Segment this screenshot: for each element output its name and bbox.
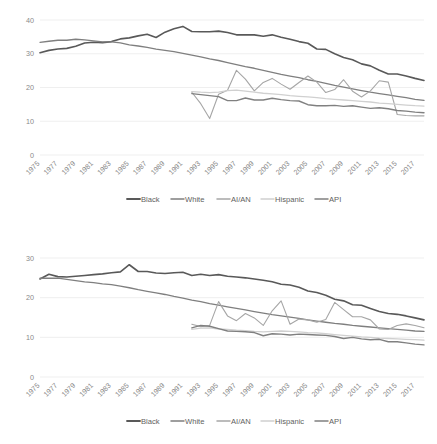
legend-label-ai-an: AI/AN: [231, 195, 251, 204]
legend-label-white: White: [185, 195, 204, 204]
x-axis-tick-label: 1991: [167, 381, 185, 399]
y-axis-tick-label: 20: [26, 293, 34, 302]
x-axis-tick-label: 2015: [381, 159, 399, 177]
legend-label-white: White: [185, 417, 204, 426]
line-chart-top: 0102030401975197719791981198319851987198…: [0, 0, 437, 222]
x-axis-tick-label: 1997: [220, 159, 238, 177]
x-axis-tick-label: 2011: [346, 381, 363, 398]
x-axis-tick-label: 2005: [292, 381, 310, 399]
x-axis-tick-label: 1989: [149, 159, 167, 177]
series-line-hispanic: [192, 90, 424, 106]
x-axis-tick-label: 2017: [399, 159, 417, 177]
x-axis-tick-label: 1975: [24, 159, 42, 177]
legend-label-hispanic: Hispanic: [275, 195, 304, 204]
series-line-white: [40, 39, 424, 100]
y-axis-tick-label: 10: [26, 117, 34, 126]
x-axis-tick-label: 2007: [310, 381, 328, 399]
plot-area-top: 0102030401975197719791981198319851987198…: [0, 0, 437, 222]
x-axis-tick-label: 1981: [77, 381, 95, 399]
x-axis-tick-label: 1997: [220, 381, 238, 399]
x-axis-tick-label: 2009: [327, 381, 345, 399]
legend-label-api: API: [329, 417, 341, 426]
x-axis-tick-label: 1989: [149, 381, 167, 399]
x-axis-tick-label: 1993: [184, 159, 202, 177]
x-axis-tick-label: 1979: [59, 381, 77, 399]
series-line-ai-an: [192, 301, 424, 330]
x-axis-tick-label: 2003: [274, 381, 292, 399]
line-chart-bottom: 0102030197519771979198119831985198719891…: [0, 222, 437, 444]
x-axis-tick-label: 1979: [59, 159, 77, 177]
y-axis-tick-label: 30: [26, 254, 34, 263]
x-axis-tick-label: 2013: [363, 381, 381, 399]
plot-area-bottom: 0102030197519771979198119831985198719891…: [0, 222, 437, 444]
legend-label-black: Black: [141, 195, 160, 204]
x-axis-tick-label: 1977: [42, 159, 60, 177]
x-axis-tick-label: 1977: [42, 381, 60, 399]
x-axis-tick-label: 1981: [77, 159, 95, 177]
x-axis-tick-label: 2013: [363, 159, 381, 177]
legend-label-hispanic: Hispanic: [275, 417, 304, 426]
x-axis-tick-label: 2001: [256, 159, 274, 177]
x-axis-tick-label: 2015: [381, 381, 399, 399]
x-axis-tick-label: 1975: [24, 381, 42, 399]
x-axis-tick-label: 2003: [274, 159, 292, 177]
x-axis-tick-label: 2007: [310, 159, 328, 177]
x-axis-tick-label: 2009: [327, 159, 345, 177]
y-axis-tick-label: 0: [30, 151, 34, 160]
y-axis-tick-label: 20: [26, 83, 34, 92]
x-axis-tick-label: 1983: [95, 381, 113, 399]
x-axis-tick-label: 1995: [202, 159, 220, 177]
y-axis-tick-label: 40: [26, 16, 34, 25]
x-axis-tick-label: 1999: [238, 381, 256, 399]
legend-label-black: Black: [141, 417, 160, 426]
x-axis-tick-label: 1987: [131, 159, 149, 177]
x-axis-tick-label: 1995: [202, 381, 220, 399]
x-axis-tick-label: 1991: [167, 159, 185, 177]
y-axis-tick-label: 0: [30, 373, 34, 382]
series-line-black: [40, 265, 424, 320]
x-axis-tick-label: 1985: [113, 159, 131, 177]
x-axis-tick-label: 1985: [113, 381, 131, 399]
x-axis-tick-label: 1987: [131, 381, 149, 399]
x-axis-tick-label: 1999: [238, 159, 256, 177]
x-axis-tick-label: 2001: [256, 381, 274, 399]
x-axis-tick-label: 1983: [95, 159, 113, 177]
series-line-white: [40, 278, 424, 331]
x-axis-tick-label: 2011: [346, 159, 363, 176]
chart-panel-top: 0102030401975197719791981198319851987198…: [0, 0, 437, 222]
x-axis-tick-label: 2017: [399, 381, 417, 399]
legend-label-api: API: [329, 195, 341, 204]
y-axis-tick-label: 10: [26, 333, 34, 342]
chart-panel-bottom: 0102030197519771979198119831985198719891…: [0, 222, 437, 444]
legend-label-ai-an: AI/AN: [231, 417, 251, 426]
x-axis-tick-label: 1993: [184, 381, 202, 399]
y-axis-tick-label: 30: [26, 49, 34, 58]
x-axis-tick-label: 2005: [292, 159, 310, 177]
